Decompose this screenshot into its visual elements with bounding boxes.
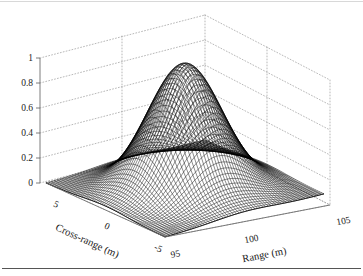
z-tick-label: 0.6	[21, 103, 33, 113]
x-tick-label: 105	[335, 215, 351, 228]
z-axis	[36, 58, 40, 183]
y-tick-label: 5	[52, 199, 61, 210]
z-tick-label: 0.2	[21, 153, 33, 163]
x-axis-title: Range (m)	[241, 245, 288, 265]
z-tick-labels: 1 0.8 0.6 0.4 0.2 0	[21, 53, 33, 188]
figure-container: 1 0.8 0.6 0.4 0.2 0 5 0 -5 95 100 105 Cr…	[0, 0, 363, 276]
y-tick-label: -5	[153, 242, 165, 254]
surface-plot: 1 0.8 0.6 0.4 0.2 0 5 0 -5 95 100 105 Cr…	[0, 0, 363, 276]
gaussian-mesh-surface	[46, 63, 324, 237]
z-tick-label: 0.8	[21, 78, 33, 88]
z-tick-label: 1	[28, 53, 33, 63]
y-axis-title: Cross-range (m)	[54, 222, 122, 262]
y-tick-label: 0	[103, 221, 112, 232]
x-tick-label: 95	[170, 248, 181, 260]
x-tick-label: 100	[243, 233, 259, 246]
z-tick-label: 0	[28, 178, 33, 188]
z-tick-label: 0.4	[21, 128, 33, 138]
